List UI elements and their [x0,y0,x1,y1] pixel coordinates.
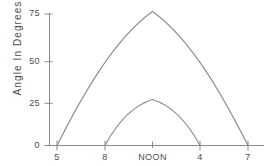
series-lower-arc-line [105,100,200,146]
series-upper-arc-line [57,12,248,146]
x-tick-label-7: 7 [234,153,262,162]
chart-container: Angle In Degrees 75 50 25 0 5 8 NOON 4 7 [0,0,269,166]
y-tick-label-50: 50 [14,57,40,66]
y-tick-label-75: 75 [14,9,40,18]
y-tick-label-0: 0 [14,141,40,150]
chart-plot-area [0,0,269,166]
x-tick-label-5: 5 [43,153,71,162]
y-axis-ticks [45,14,53,146]
x-tick-label-8: 8 [91,153,119,162]
y-tick-label-25: 25 [14,99,40,108]
x-tick-label-noon: NOON [132,153,173,162]
x-tick-label-4: 4 [186,153,214,162]
